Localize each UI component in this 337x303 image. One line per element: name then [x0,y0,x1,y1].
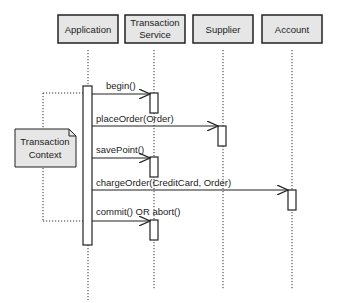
message-label: commit() OR abort() [96,206,180,217]
transaction-context-note: Transaction Context [15,129,76,167]
participant-label: Application [65,24,111,35]
note-label-line1: Transaction [20,136,69,147]
sequence-diagram: Application Transaction Service Supplier… [0,0,337,303]
message-commit-or-abort: commit() OR abort() [92,206,180,221]
message-label: chargeOrder(CreditCard, Order) [96,177,231,188]
participant-application: Application [58,15,118,43]
activation-account-chargeorder [288,190,296,210]
message-savepoint: savePoint() [92,144,150,158]
participant-label: Supplier [206,24,241,35]
participant-label-line2: Service [139,29,171,40]
message-label: begin() [106,80,136,91]
participant-supplier: Supplier [193,15,253,43]
message-chargeorder: chargeOrder(CreditCard, Order) [92,177,288,190]
message-label: savePoint() [96,144,144,155]
participant-account: Account [262,15,322,43]
activation-application [83,86,92,245]
participant-label: Account [275,24,310,35]
activation-ts-savepoint [150,157,158,177]
activation-ts-commit [150,220,158,240]
message-begin: begin() [92,80,150,94]
participant-label-line1: Transaction [130,17,179,28]
activation-supplier-placeorder [218,126,226,146]
message-placeorder: placeOrder(Order) [92,113,218,126]
note-label-line2: Context [29,149,62,160]
message-label: placeOrder(Order) [96,113,174,124]
activation-ts-begin [150,93,158,113]
participant-transaction-service: Transaction Service [125,15,185,43]
